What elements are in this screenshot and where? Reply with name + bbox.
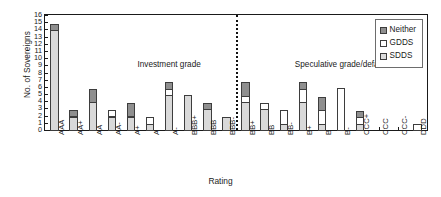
bar-segment-neither — [127, 103, 135, 117]
grade-divider — [236, 15, 238, 130]
x-axis-tick-label: CCC+ — [362, 114, 371, 135]
x-axis-tick-label: B+ — [305, 125, 314, 135]
legend-swatch-gdds-icon — [380, 40, 387, 47]
x-axis-title: Rating — [0, 176, 441, 186]
y-axis-tick-label: 12 — [14, 40, 45, 47]
bar-A — [146, 116, 154, 130]
bar-segment-gdds — [299, 89, 307, 103]
group-label: Investment grade — [138, 60, 201, 69]
x-axis-tick-label: A+ — [133, 125, 142, 135]
bar-segment-gdds — [337, 88, 345, 131]
bar-segment-neither — [318, 97, 326, 111]
x-axis-tick-label: A- — [171, 127, 180, 135]
x-axis-tick-label: A — [152, 130, 161, 135]
bar-segment-gdds — [318, 110, 326, 124]
y-axis-tick-label: 2 — [14, 112, 45, 119]
x-axis-tick-label: AA- — [114, 122, 123, 135]
x-axis-tick-label: BBB — [209, 120, 218, 136]
legend-label-gdds: GDDS — [390, 39, 414, 47]
y-axis-tick-label: 7 — [14, 76, 45, 83]
x-axis-tick-label: BB+ — [248, 120, 257, 135]
legend-item: GDDS — [380, 37, 416, 50]
legend-swatch-neither-icon — [380, 27, 387, 34]
legend-item: SDDS — [380, 50, 416, 63]
x-axis-tick-label: AA — [95, 125, 104, 135]
legend: Neither GDDS SDDS — [375, 19, 423, 68]
x-axis-tick-label: AA+ — [76, 120, 85, 135]
y-axis-tick-label: 14 — [14, 26, 45, 33]
x-axis-tick-label: BB — [267, 125, 276, 135]
y-axis-tick-label: 0 — [14, 126, 45, 133]
x-axis-tick-label: DDD — [419, 118, 428, 135]
bar-A- — [165, 80, 173, 130]
bar-B- — [337, 87, 345, 130]
x-axis-tick-label: CCC — [381, 118, 390, 135]
y-axis-tick-label: 15 — [14, 19, 45, 26]
x-axis-tick-label: B — [324, 130, 333, 135]
y-axis-tick-label: 3 — [14, 105, 45, 112]
y-axis-tick-label: 10 — [14, 54, 45, 61]
bar-segment-sdds — [165, 95, 173, 131]
legend-item: Neither — [380, 24, 416, 37]
x-axis-tick-labels: AAAAA+AAAA-A+AA-BBB+BBBBBB-BB+BBBB-B+BB-… — [44, 133, 428, 173]
x-axis-tick-label: AAA — [57, 120, 66, 136]
bar-B+ — [299, 80, 307, 130]
y-axis-tick-label: 13 — [14, 33, 45, 40]
y-axis-tick-label: 1 — [14, 119, 45, 126]
bar-AAA — [50, 22, 58, 130]
y-axis-tick-mark — [45, 130, 48, 131]
y-axis-tick-label: 16 — [14, 11, 45, 18]
group-label: Speculative grade/default — [295, 60, 387, 69]
y-axis-tick-label: 9 — [14, 62, 45, 69]
y-axis-tick-label: 6 — [14, 83, 45, 90]
y-axis-tick-label: 4 — [14, 98, 45, 105]
x-axis-tick-label: BB- — [286, 122, 295, 135]
bar-B — [318, 94, 326, 130]
bar-segment-neither — [241, 82, 249, 96]
legend-label-neither: Neither — [390, 26, 416, 34]
y-axis-tick-label: 11 — [14, 47, 45, 54]
bar-segment-sdds — [50, 30, 58, 131]
x-axis-tick-label: B- — [343, 127, 352, 135]
x-axis-tick-label: BBB+ — [190, 115, 199, 135]
y-axis-tick-label: 5 — [14, 90, 45, 97]
bar-segment-neither — [89, 89, 97, 103]
legend-label-sdds: SDDS — [390, 52, 413, 60]
chart-figure: No. of Sovereigns 0123456789101112131415… — [0, 0, 441, 197]
legend-swatch-sdds-icon — [380, 53, 387, 60]
x-axis-tick-label: BBB- — [228, 117, 237, 135]
x-axis-tick-label: CCC- — [400, 116, 409, 135]
bar-AA — [89, 87, 97, 130]
y-axis-tick-label: 8 — [14, 69, 45, 76]
